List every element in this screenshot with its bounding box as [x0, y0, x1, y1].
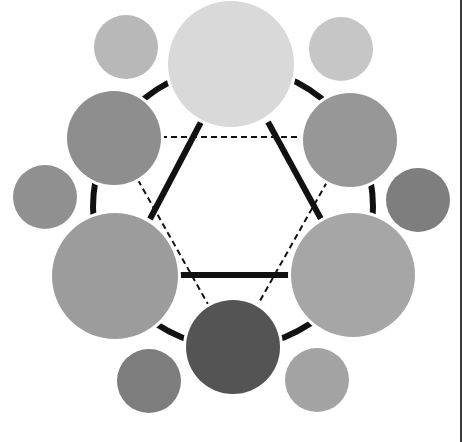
color-circle-upper-left-medium	[67, 91, 161, 185]
color-circles	[10, 0, 453, 416]
color-circle-lower-left-large	[52, 213, 178, 339]
color-wheel-canvas	[0, 0, 462, 442]
color-circle-right-small	[386, 168, 450, 232]
color-circle-top-right-small	[309, 17, 373, 81]
color-circle-top-large	[168, 1, 294, 127]
color-wheel-diagram	[0, 0, 462, 442]
color-circle-bottom-right-small	[285, 348, 349, 412]
color-circle-top-left-small	[94, 15, 158, 79]
color-circle-lower-right-large	[291, 213, 415, 337]
color-circle-left-small	[13, 165, 77, 229]
color-circle-bottom-medium	[186, 300, 280, 394]
color-circle-upper-right-medium	[303, 93, 397, 187]
color-circle-bottom-left-small	[117, 349, 181, 413]
